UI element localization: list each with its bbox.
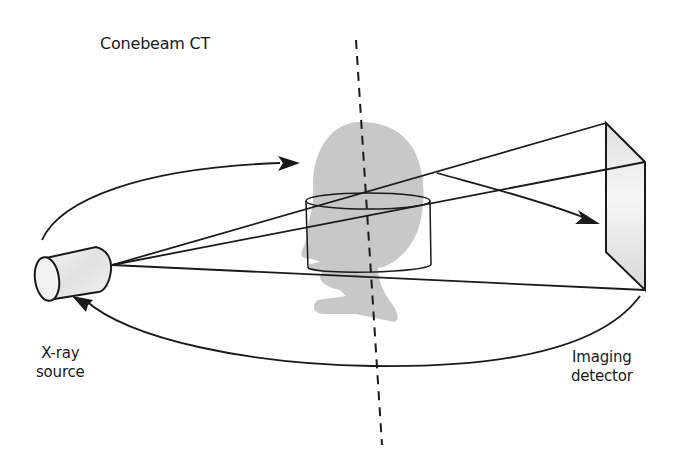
rotation-arrowhead-upper: [278, 156, 300, 171]
imaging-detector-label: Imaging detector: [571, 348, 633, 386]
x-ray-source-label-line2: source: [36, 363, 85, 382]
diagram-canvas: [0, 0, 682, 474]
x-ray-source-label: X-ray source: [36, 344, 85, 382]
conebeam-ct-diagram: Conebeam CT X-ray source Imaging detecto…: [0, 0, 682, 474]
imaging-detector-label-line1: Imaging: [571, 348, 633, 367]
projection-arrow: [437, 173, 585, 218]
rotation-path-upper: [42, 163, 280, 240]
diagram-title: Conebeam CT: [100, 34, 210, 53]
x-ray-source: [32, 247, 111, 302]
imaging-detector-label-line2: detector: [571, 367, 633, 386]
projection-arrowhead: [575, 210, 600, 224]
x-ray-source-label-line1: X-ray: [36, 344, 85, 363]
detector-face: [606, 123, 645, 290]
